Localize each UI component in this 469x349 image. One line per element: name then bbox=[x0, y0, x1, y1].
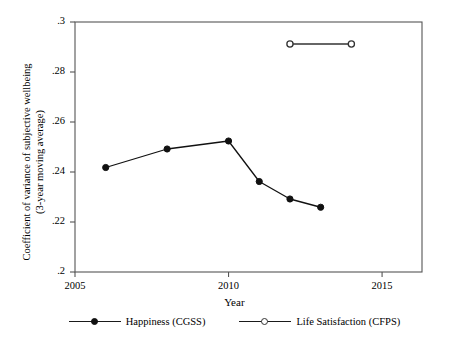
data-point-0-0[interactable] bbox=[103, 164, 109, 170]
legend-entry-happiness[interactable]: Happiness (CGSS) bbox=[69, 316, 206, 327]
data-point-1-1[interactable] bbox=[348, 41, 354, 47]
data-point-1-0[interactable] bbox=[287, 41, 293, 47]
data-point-0-2[interactable] bbox=[225, 138, 231, 144]
y-tick-label-5: .3 bbox=[31, 15, 65, 26]
y-tick-label-0: .2 bbox=[31, 265, 65, 276]
y-tick-label-3: .26 bbox=[31, 115, 65, 126]
plot-border bbox=[75, 22, 422, 272]
y-tick-label-1: .22 bbox=[31, 215, 65, 226]
legend-label-life-satisfaction: Life Satisfaction (CFPS) bbox=[296, 316, 400, 327]
legend-entry-life-satisfaction[interactable]: Life Satisfaction (CFPS) bbox=[239, 316, 400, 327]
y-tick-label-2: .24 bbox=[31, 165, 65, 176]
data-point-0-1[interactable] bbox=[164, 146, 170, 152]
data-point-0-3[interactable] bbox=[256, 178, 262, 184]
legend-key-hollow-circle-icon bbox=[239, 317, 291, 327]
x-tick-label-0: 2005 bbox=[50, 280, 100, 291]
legend-key-filled-circle-icon bbox=[69, 317, 121, 327]
x-tick-label-1: 2010 bbox=[204, 280, 254, 291]
data-point-0-4[interactable] bbox=[287, 196, 293, 202]
plot-area bbox=[0, 0, 469, 349]
x-tick-label-2: 2015 bbox=[357, 280, 407, 291]
chart-legend: Happiness (CGSS) Life Satisfaction (CFPS… bbox=[0, 316, 469, 327]
chart-figure: Coefficient of variance of subjective we… bbox=[0, 0, 469, 349]
y-tick-label-4: .28 bbox=[31, 65, 65, 76]
data-point-0-5[interactable] bbox=[318, 204, 324, 210]
legend-label-happiness: Happiness (CGSS) bbox=[126, 316, 206, 327]
